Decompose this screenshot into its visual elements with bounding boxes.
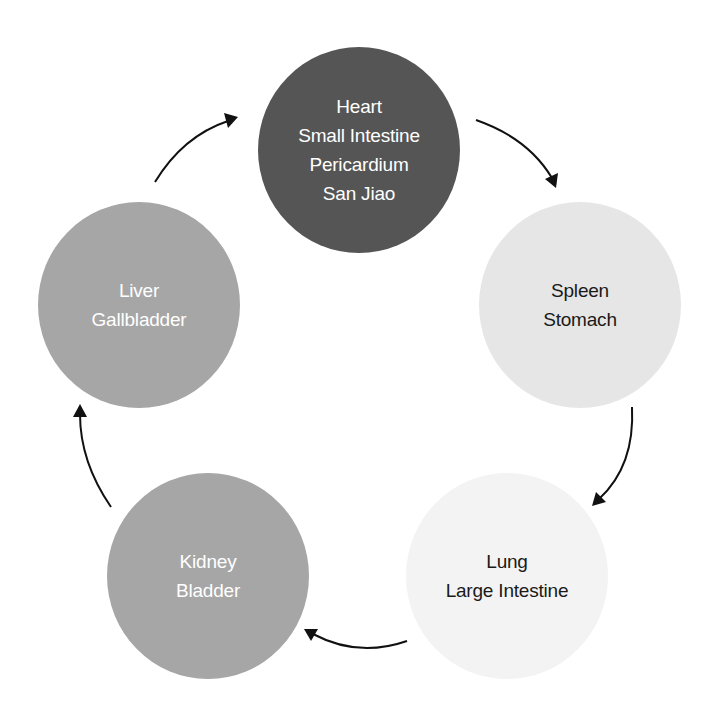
node-heart-line-1: Heart (336, 92, 381, 121)
five-element-cycle-diagram: Heart Small Intestine Pericardium San Ji… (0, 0, 702, 717)
node-spleen: Spleen Stomach (479, 202, 681, 408)
node-heart-line-4: San Jiao (323, 179, 395, 208)
node-heart-line-3: Pericardium (309, 150, 408, 179)
node-liver: Liver Gallbladder (38, 202, 240, 408)
node-liver-line-2: Gallbladder (92, 305, 187, 334)
node-kidney-line-1: Kidney (180, 547, 237, 576)
node-kidney: Kidney Bladder (107, 473, 309, 679)
node-lung-line-1: Lung (486, 547, 527, 576)
curved-arrow-icon (155, 113, 238, 182)
node-lung: Lung Large Intestine (406, 473, 608, 679)
curved-arrow-icon (592, 407, 632, 506)
curved-arrow-icon (73, 404, 111, 507)
node-kidney-line-2: Bladder (176, 576, 240, 605)
node-heart-line-2: Small Intestine (298, 121, 420, 150)
node-liver-line-1: Liver (119, 276, 159, 305)
curved-arrow-icon (476, 120, 558, 188)
node-spleen-line-1: Spleen (551, 276, 609, 305)
curved-arrow-icon (304, 629, 407, 648)
node-heart: Heart Small Intestine Pericardium San Ji… (258, 47, 460, 253)
node-spleen-line-2: Stomach (543, 305, 617, 334)
node-lung-line-2: Large Intestine (446, 576, 569, 605)
